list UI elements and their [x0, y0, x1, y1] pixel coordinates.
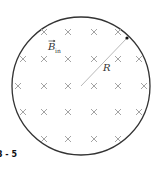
field-into-page-marker	[65, 136, 71, 142]
field-into-page-marker	[91, 109, 97, 115]
field-into-page-marker	[65, 109, 71, 115]
radius-label: R	[102, 62, 111, 73]
field-into-page-marker	[41, 136, 47, 142]
magnetic-field-diagram: R B in 3 - 5	[0, 0, 159, 171]
field-into-page-marker	[41, 29, 47, 35]
field-into-page-marker	[115, 136, 121, 142]
field-into-page-marker	[115, 109, 121, 115]
field-label: B in	[47, 40, 61, 54]
field-into-page-marker	[91, 136, 97, 142]
field-into-page-marker	[115, 83, 121, 89]
field-label-subscript: in	[55, 47, 61, 54]
field-into-page-marker	[15, 83, 21, 89]
field-into-page-marker	[65, 56, 71, 62]
field-into-page-marker	[41, 83, 47, 89]
field-into-page-marker	[136, 56, 142, 62]
field-into-page-marker	[115, 56, 121, 62]
radius-endpoint-dot	[125, 36, 128, 39]
field-into-page-marker	[136, 109, 142, 115]
field-into-page-marker	[41, 56, 47, 62]
field-into-page-marker	[91, 56, 97, 62]
field-into-page-marker	[141, 83, 147, 89]
field-into-page-marker	[20, 56, 26, 62]
field-into-page-marker	[65, 29, 71, 35]
field-into-page-marker	[20, 109, 26, 115]
field-into-page-marker	[65, 83, 71, 89]
figure-label: 3 - 5	[0, 150, 17, 159]
field-into-page-marker	[91, 83, 97, 89]
field-into-page-marker	[91, 29, 97, 35]
field-into-page-marker	[115, 29, 121, 35]
field-into-page-marker	[41, 109, 47, 115]
